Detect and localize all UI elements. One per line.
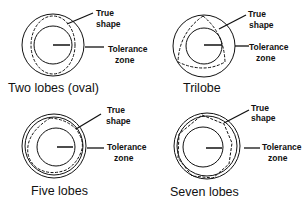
tolerance-zone-label: Tolerance	[108, 44, 148, 54]
tolerance-zone-label: zone	[115, 55, 135, 65]
tolerance-zone-label: Tolerance	[249, 42, 289, 52]
inner-tolerance-circle	[186, 28, 222, 64]
true-shape-leader	[67, 13, 93, 24]
true-shape-label: shape	[249, 20, 274, 30]
tolerance-zone-label: zone	[268, 153, 288, 163]
true-shape-leader	[76, 114, 101, 129]
true-shape-label: True	[96, 8, 114, 18]
tolerance-zone-label: Tolerance	[262, 142, 302, 152]
tolerance-zone-label: zone	[114, 153, 134, 163]
panel-two-lobes	[22, 13, 104, 76]
tolerance-zone-label: Tolerance	[107, 142, 147, 152]
outer-tolerance-circle	[174, 113, 240, 179]
panel-title: Trilobe	[183, 81, 221, 95]
panel-title: Two lobes (oval)	[8, 81, 99, 95]
lobing-diagram: True shape Tolerance zone Two lobes (ova…	[0, 0, 306, 208]
panel-title: Seven lobes	[170, 185, 239, 199]
outer-tolerance-circle	[22, 114, 86, 178]
true-shape-label: True	[251, 103, 269, 113]
true-shape-label: True	[107, 105, 125, 115]
panel-trilobe	[173, 15, 249, 77]
true-shape-label: shape	[96, 19, 121, 29]
panel-five-lobes	[22, 114, 104, 178]
true-shape-label: True	[248, 9, 266, 19]
true-shape-label: shape	[251, 113, 276, 123]
true-shape-label: shape	[106, 116, 131, 126]
panel-seven-lobes	[174, 110, 260, 179]
panel-title: Five lobes	[31, 184, 88, 198]
true-shape-trilobe	[178, 16, 225, 68]
tolerance-zone-label: zone	[256, 53, 276, 63]
true-shape-leader	[224, 110, 249, 123]
true-shape-five-lobes	[28, 118, 83, 173]
inner-tolerance-circle	[183, 127, 223, 167]
